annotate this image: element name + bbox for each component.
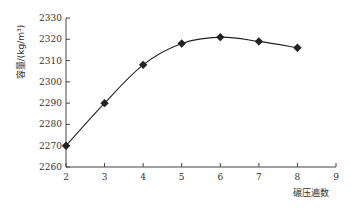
x-tick-label: 4 <box>140 172 146 182</box>
x-tick-label: 2 <box>63 172 69 182</box>
y-tick-label: 2270 <box>39 141 62 151</box>
line-chart: 22602270228022902300231023202330 2345678… <box>0 0 351 215</box>
x-tick-label: 5 <box>179 172 185 182</box>
data-markers <box>62 33 302 150</box>
y-tick-label: 2260 <box>39 162 62 172</box>
y-tick-label: 2320 <box>39 34 62 44</box>
x-tick-label: 6 <box>217 172 223 182</box>
diamond-marker <box>178 39 186 47</box>
x-tick-label: 8 <box>295 172 301 182</box>
x-tick-label: 7 <box>256 172 262 182</box>
x-axis-ticks: 23456789 <box>63 163 339 182</box>
y-tick-label: 2300 <box>39 77 62 87</box>
y-tick-label: 2290 <box>39 98 62 108</box>
x-tick-label: 9 <box>333 172 339 182</box>
axes <box>66 18 336 167</box>
diamond-marker <box>293 44 301 52</box>
diamond-marker <box>216 33 224 41</box>
data-line <box>66 37 297 146</box>
y-axis-title: 容量/(kg/m³) <box>15 25 26 79</box>
y-tick-label: 2330 <box>39 13 62 23</box>
diamond-marker <box>255 37 263 45</box>
x-tick-label: 3 <box>102 172 108 182</box>
x-axis-title: 碾压遍数 <box>293 187 329 198</box>
y-tick-label: 2280 <box>39 119 62 129</box>
y-tick-label: 2310 <box>39 56 62 66</box>
